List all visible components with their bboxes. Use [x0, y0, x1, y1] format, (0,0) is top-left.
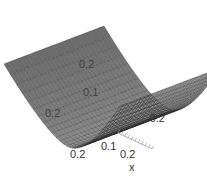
y-tick-label: -0.2 — [146, 112, 165, 124]
x-axis-label: x — [129, 161, 135, 173]
z-tick-label: 0.1 — [83, 86, 98, 98]
x-axis-tick — [128, 135, 130, 138]
z-tick-label: 0.2 — [79, 58, 94, 70]
x-axis-tick — [142, 141, 144, 144]
x-axis-tick — [138, 140, 140, 143]
surface — [4, 26, 207, 148]
x-axis — [118, 130, 154, 149]
x-axis-tick — [135, 138, 137, 141]
x-axis-tick — [149, 144, 151, 147]
front-tick-label: 0.2 — [70, 148, 85, 160]
x-axis-tick — [145, 143, 147, 146]
x-tick-label: 0.2 — [120, 148, 135, 160]
y-tick-label: 0.2 — [45, 107, 60, 119]
x-axis-tick — [121, 132, 123, 135]
x-axis-tick — [125, 133, 127, 136]
x-axis-tick — [132, 136, 134, 139]
x-axis-tick — [152, 146, 154, 149]
x-tick-label: 0.1 — [101, 140, 116, 152]
surface-plot: 0.2 0.1 0.2 -0.2 0.1 0.2 0.2 x — [0, 0, 207, 181]
